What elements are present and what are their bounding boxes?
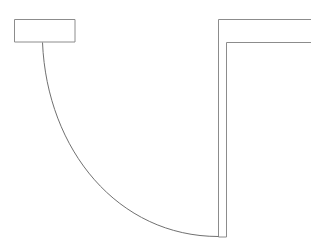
left-block-rectangle <box>15 20 76 43</box>
line-drawing-svg <box>0 0 323 249</box>
drawing-canvas <box>0 0 323 249</box>
right-inner-wall-polyline <box>227 43 312 238</box>
right-outer-wall-polyline <box>219 20 312 238</box>
concave-fillet-arc <box>43 43 219 237</box>
